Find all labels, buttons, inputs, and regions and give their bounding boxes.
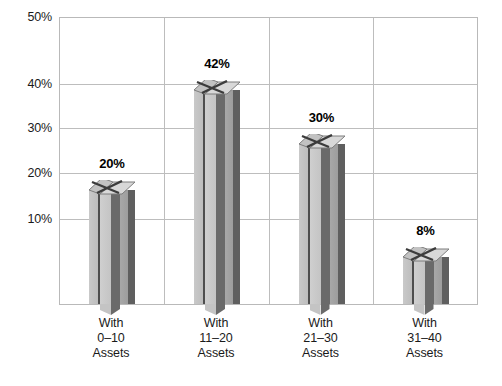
bar-column-2 bbox=[299, 144, 345, 304]
bar-cell-0: 20% bbox=[60, 18, 164, 304]
bar-edge-shadow-0 bbox=[111, 190, 120, 304]
x-axis-label-0: With 0–10 Assets bbox=[59, 316, 163, 361]
bar-0: 20% bbox=[89, 190, 135, 304]
bar-face-mid-3 bbox=[434, 257, 442, 304]
bar-face-right-0 bbox=[128, 190, 135, 304]
bar-base-skirt-2 bbox=[310, 304, 330, 315]
x-axis-label-3-line-1: 31–40 bbox=[373, 331, 476, 346]
bar-face-left-3 bbox=[403, 257, 412, 304]
y-axis-tick-10: 10% bbox=[4, 212, 52, 226]
x-axis-label-1-line-0: With bbox=[164, 316, 268, 331]
bar-1: 42% bbox=[194, 90, 240, 304]
bar-base-skirt-3 bbox=[414, 304, 434, 315]
data-label-3: 8% bbox=[416, 223, 434, 238]
y-axis-tick-30: 30% bbox=[4, 121, 52, 135]
y-axis-tick-50: 50% bbox=[4, 10, 52, 24]
y-axis: 50% 40% 30% 20% 10% bbox=[0, 0, 52, 386]
bar-face-front-3 bbox=[414, 257, 425, 304]
x-axis-label-3-line-2: Assets bbox=[373, 346, 476, 361]
x-axis-label-0-line-0: With bbox=[59, 316, 163, 331]
plot-area: 20% bbox=[59, 17, 478, 305]
bar-face-front-2 bbox=[310, 144, 321, 304]
bar-edge-shadow-3 bbox=[425, 257, 434, 304]
bar-top-cap-1 bbox=[194, 80, 240, 96]
bar-face-left-2 bbox=[299, 144, 308, 304]
bar-top-cap-0 bbox=[89, 180, 135, 196]
bar-face-left-1 bbox=[194, 90, 203, 304]
bar-top-cap-3 bbox=[403, 247, 449, 263]
bar-column-1 bbox=[194, 90, 240, 304]
x-axis-label-1-line-2: Assets bbox=[164, 346, 268, 361]
y-axis-tick-40: 40% bbox=[4, 77, 52, 91]
x-axis-label-2: With 21–30 Assets bbox=[269, 316, 372, 361]
x-axis-label-1-line-1: 11–20 bbox=[164, 331, 268, 346]
bar-face-left-0 bbox=[89, 190, 98, 304]
y-axis-tick-20: 20% bbox=[4, 166, 52, 180]
data-label-1: 42% bbox=[204, 56, 229, 71]
bar-column-3 bbox=[403, 257, 449, 304]
bar-face-front-1 bbox=[205, 90, 216, 304]
bar-face-mid-2 bbox=[330, 144, 338, 304]
x-axis-label-1: With 11–20 Assets bbox=[164, 316, 268, 361]
bar-2: 30% bbox=[299, 144, 345, 304]
bar-edge-shadow-1 bbox=[216, 90, 225, 304]
x-axis-label-2-line-1: 21–30 bbox=[269, 331, 372, 346]
x-axis-label-2-line-2: Assets bbox=[269, 346, 372, 361]
bar-cell-2: 30% bbox=[270, 18, 373, 304]
bar-base-skirt-0 bbox=[100, 304, 120, 315]
bar-face-mid-1 bbox=[225, 90, 233, 304]
bar-face-right-2 bbox=[338, 144, 345, 304]
x-axis-label-3: With 31–40 Assets bbox=[373, 316, 476, 361]
bar-cell-3: 8% bbox=[374, 18, 477, 304]
bar-chart: 50% 40% 30% 20% 10% 20% bbox=[0, 0, 502, 386]
data-label-0: 20% bbox=[99, 156, 124, 171]
bar-top-cap-2 bbox=[299, 134, 345, 150]
bar-face-right-3 bbox=[442, 257, 449, 304]
bar-edge-shadow-2 bbox=[321, 144, 330, 304]
data-label-2: 30% bbox=[309, 110, 334, 125]
bar-column-0 bbox=[89, 190, 135, 304]
x-axis-label-0-line-1: 0–10 bbox=[59, 331, 163, 346]
x-axis-label-0-line-2: Assets bbox=[59, 346, 163, 361]
bar-cell-1: 42% bbox=[165, 18, 269, 304]
bar-face-right-1 bbox=[233, 90, 240, 304]
bar-base-skirt-1 bbox=[205, 304, 225, 315]
bar-face-front-0 bbox=[100, 190, 111, 304]
bar-face-mid-0 bbox=[120, 190, 128, 304]
x-axis-label-3-line-0: With bbox=[373, 316, 476, 331]
x-axis-label-2-line-0: With bbox=[269, 316, 372, 331]
bar-3: 8% bbox=[403, 257, 449, 304]
